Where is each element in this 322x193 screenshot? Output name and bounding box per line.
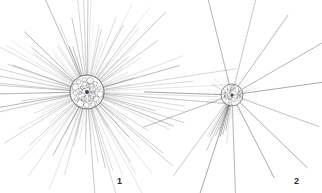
figure-1-granule [86, 99, 87, 100]
figure-2-granule [223, 97, 224, 98]
figure-2-granule [227, 98, 228, 99]
figure-1-granule [72, 92, 73, 93]
figure-1-granule [85, 107, 86, 108]
figure-2-granule [241, 90, 242, 91]
figure-1-granule [87, 81, 88, 82]
figure-2-granule [231, 104, 232, 105]
figure-1-granule [95, 104, 96, 105]
figure-1-granule [96, 88, 97, 89]
figure-1-granule [78, 80, 79, 81]
figure-2-granule [223, 92, 224, 93]
figure-1-granule [76, 95, 77, 96]
figure-1-granule [89, 100, 90, 101]
figure-1-granule [88, 105, 89, 106]
figure-2-granule [225, 102, 226, 103]
figure-1-granule [74, 91, 75, 92]
figure-2-granule [228, 102, 229, 103]
figure-1-granule [75, 92, 76, 93]
figure-2-granule [233, 94, 234, 95]
figure-2-granule [234, 90, 235, 91]
figure-2-granule [222, 92, 223, 93]
figure-2-granule [227, 94, 228, 95]
figure-1-granule [73, 98, 74, 99]
figure-2-granule [225, 91, 226, 92]
figure-1-granule [97, 82, 98, 83]
figure-2-granule [229, 92, 230, 93]
figure-1-granule [82, 92, 83, 93]
figure-2-granule [224, 101, 225, 102]
figure-2-granule [226, 98, 227, 99]
figure-2-granule [230, 91, 231, 92]
figure-2-granule [228, 89, 229, 90]
figure-2-granule [239, 95, 240, 96]
figure-2-granule [233, 89, 234, 90]
figure-2-granule [228, 99, 229, 100]
figure-1-granule [101, 88, 102, 89]
figure-2-granule [241, 92, 242, 93]
figure-1-granule [96, 100, 97, 101]
figure-1-granule [96, 103, 97, 104]
figure-1-granule [96, 99, 97, 100]
figure-1-granule [95, 94, 96, 95]
figure-2-granule [225, 94, 226, 95]
figure-1-granule [82, 90, 83, 91]
figure-2-granule [238, 95, 239, 96]
figure-1-granule [78, 93, 79, 94]
figure-1-granule [92, 81, 93, 82]
figure-1-granule [85, 100, 86, 101]
figure-2-granule [240, 96, 241, 97]
figure-1-granule [83, 90, 84, 91]
figure-1-granule [89, 89, 90, 90]
figure-1-granule [78, 100, 79, 101]
figure-1-granule [88, 99, 89, 100]
figure-1-granule [91, 99, 92, 100]
figure-2-granule [241, 95, 242, 96]
figure-1-granule [71, 93, 72, 94]
figure-1-granule [78, 88, 79, 89]
figure-1-granule [89, 79, 90, 80]
figure-2-granule [235, 88, 236, 89]
figure-2-granule [235, 91, 236, 92]
figure-2-granule [238, 88, 239, 89]
figure-2-granule [236, 87, 237, 88]
figure-2-granule [237, 97, 238, 98]
figure-2-granule [234, 97, 235, 98]
figure-2-granule [235, 92, 236, 93]
figure-2-granule [235, 95, 236, 96]
figure-1-granule [94, 93, 95, 94]
figure-1-granule [98, 99, 99, 100]
figure-1-granule [95, 96, 96, 97]
figure-2-granule [230, 90, 231, 91]
figure-1-granule [99, 89, 100, 90]
figure-2-granule [228, 86, 229, 87]
figure-2-granule [232, 97, 233, 98]
figure-1-granule [88, 89, 89, 90]
figure-1-nucleus [85, 90, 89, 94]
plate-canvas [0, 0, 322, 193]
figure-1-granule [71, 90, 72, 91]
figure-2-granule [235, 99, 236, 100]
figure-1-granule [79, 80, 80, 81]
figure-1-granule [93, 91, 94, 92]
figure-2-granule [222, 96, 223, 97]
figure-1-granule [77, 98, 78, 99]
figure-1-granule [83, 88, 84, 89]
figure-1-granule [88, 106, 89, 107]
figure-1-granule [89, 93, 90, 94]
figure-2-granule [229, 98, 230, 99]
figure-1-granule [96, 86, 97, 87]
figure-1-granule [96, 91, 97, 92]
figure-1-granule [95, 91, 96, 92]
figure-2-granule [235, 93, 236, 94]
figure-1-granule [83, 93, 84, 94]
figure-2-granule [238, 89, 239, 90]
figure-1-granule [74, 83, 75, 84]
figure-1-granule [74, 99, 75, 100]
figure-2-granule [226, 97, 227, 98]
figure-1-granule [97, 96, 98, 97]
figure-2-granule [225, 92, 226, 93]
figure-1-granule [96, 90, 97, 91]
figure-2-granule [238, 86, 239, 87]
figure-2-granule [229, 90, 230, 91]
figure-2-granule [231, 97, 232, 98]
